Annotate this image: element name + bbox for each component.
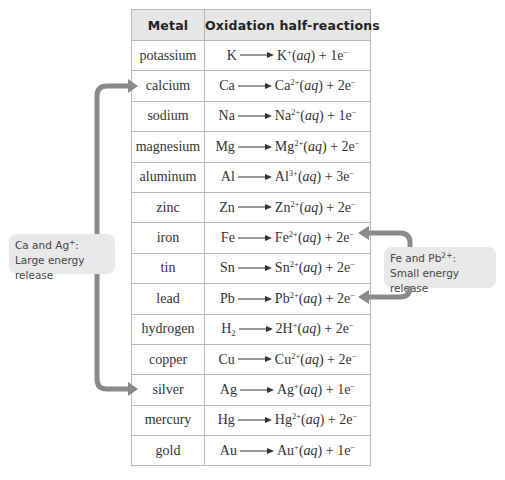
half-reaction: HgHg2+(aq) + 2e−	[205, 405, 371, 435]
metal-name: potassium	[132, 41, 205, 71]
reactant: Ag	[220, 382, 237, 397]
reaction-arrow-icon	[238, 264, 272, 272]
table-header-row: Metal Oxidation half-reactions	[132, 10, 371, 41]
ion: Au	[277, 443, 294, 458]
metal-name: iron	[132, 223, 205, 253]
table-row-mercury: mercuryHgHg2+(aq) + 2e−	[132, 405, 371, 435]
state: aq	[305, 108, 319, 123]
reaction-arrow-icon	[239, 325, 273, 333]
reactant: H	[221, 321, 231, 336]
metal-name: silver	[132, 375, 205, 405]
state: aq	[303, 260, 317, 275]
electrons: 2e	[339, 412, 352, 427]
electrons: 2e	[337, 291, 350, 306]
half-reaction: PbPb2+(aq) + 2e−	[205, 284, 371, 314]
half-reaction: NaNa2+(aq) + 1e−	[205, 101, 371, 131]
electron-charge: −	[350, 259, 355, 269]
table-row-aluminum: aluminumAlAl3+(aq) + 3e−	[132, 162, 371, 192]
state: aq	[303, 291, 317, 306]
header-metal: Metal	[132, 10, 205, 41]
half-reaction: AgAg+(aq) + 1e−	[205, 375, 371, 405]
reactant: Pb	[220, 291, 235, 306]
electron-charge: −	[352, 107, 357, 117]
ion-charge: 2+	[290, 259, 299, 269]
state: aq	[302, 321, 316, 336]
reactant: Mg	[215, 139, 234, 154]
ion: Ag	[277, 382, 294, 397]
table-row-iron: ironFeFe2+(aq) + 2e−	[132, 223, 371, 253]
ion-charge: +	[294, 381, 299, 391]
reactant: Al	[221, 169, 235, 184]
callout-right-line2: Small energy release	[390, 266, 490, 296]
electron-charge: −	[355, 138, 360, 148]
state: aq	[306, 412, 320, 427]
table-row-silver: silverAgAg+(aq) + 1e−	[132, 375, 371, 405]
state: aq	[303, 169, 317, 184]
reactant: Ca	[219, 78, 235, 93]
electrons: 2e	[338, 352, 351, 367]
metal-name: zinc	[132, 192, 205, 222]
ion: Al	[275, 169, 289, 184]
electron-charge: −	[352, 351, 357, 361]
electron-charge: −	[349, 320, 354, 330]
reactant: Hg	[218, 412, 235, 427]
callout-small-energy-release: Fe and Pb2+: Small energy release	[384, 247, 496, 288]
ion-charge: +	[293, 320, 298, 330]
ion-charge: 3+	[289, 168, 298, 178]
half-reaction: CuCu2+(aq) + 2e−	[205, 344, 371, 374]
electrons: 2e	[342, 139, 355, 154]
table-row-hydrogen: hydrogenH22H+(aq) + 2e−	[132, 314, 371, 344]
callout-right-line1: Fe and Pb2+:	[390, 251, 490, 266]
coefficient: 2	[276, 321, 283, 336]
half-reaction: KK+(aq) + 1e−	[205, 41, 371, 71]
ion-charge: +	[287, 47, 292, 57]
electrons: 1e	[337, 382, 350, 397]
left-bracket-arrow-lower	[97, 274, 130, 389]
table-row-sodium: sodiumNaNa2+(aq) + 1e−	[132, 101, 371, 131]
electrons: 1e	[338, 108, 351, 123]
ion: H	[283, 321, 293, 336]
reaction-arrow-icon	[238, 173, 272, 181]
half-reaction: H22H+(aq) + 2e−	[205, 314, 371, 344]
electron-charge: −	[343, 47, 348, 57]
state: aq	[297, 48, 311, 63]
metal-name: magnesium	[132, 132, 205, 162]
reactant: Zn	[219, 200, 235, 215]
state: aq	[304, 200, 318, 215]
state: aq	[304, 443, 318, 458]
ion: Sn	[275, 260, 290, 275]
state: aq	[304, 78, 318, 93]
reactant: Fe	[221, 230, 235, 245]
table-row-lead: leadPbPb2+(aq) + 2e−	[132, 284, 371, 314]
electron-charge: −	[350, 381, 355, 391]
metal-name: gold	[132, 436, 205, 466]
ion: Pb	[275, 291, 290, 306]
electrons: 2e	[336, 321, 349, 336]
electron-charge: −	[350, 290, 355, 300]
electrons: 2e	[337, 260, 350, 275]
electron-charge: −	[351, 77, 356, 87]
reaction-arrow-icon	[238, 416, 272, 424]
electrons: 2e	[338, 200, 351, 215]
metal-name: hydrogen	[132, 314, 205, 344]
reaction-arrow-icon	[240, 447, 274, 455]
electron-charge: −	[350, 442, 355, 452]
ion-charge: 2+	[290, 77, 299, 87]
half-reaction: ZnZn2+(aq) + 2e−	[205, 192, 371, 222]
state: aq	[305, 352, 319, 367]
header-oxidation-half-reactions: Oxidation half-reactions	[205, 10, 371, 41]
half-reaction: MgMg2+(aq) + 2e−	[205, 132, 371, 162]
table-row-calcium: calciumCaCa2+(aq) + 2e−	[132, 71, 371, 101]
ion: K	[277, 48, 287, 63]
reaction-arrow-icon	[238, 234, 272, 242]
metal-name: lead	[132, 284, 205, 314]
metal-name: aluminum	[132, 162, 205, 192]
state: aq	[304, 382, 318, 397]
half-reaction: CaCa2+(aq) + 2e−	[205, 71, 371, 101]
electrons: 1e	[337, 443, 350, 458]
ion-charge: 2+	[291, 351, 300, 361]
electron-charge: −	[351, 199, 356, 209]
electrons: 2e	[336, 230, 349, 245]
reactant: K	[227, 48, 237, 63]
ion: Ca	[275, 78, 291, 93]
